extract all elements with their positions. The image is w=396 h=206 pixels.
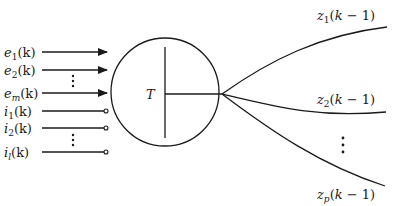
output-label-zp: zp(k − 1): [316, 187, 375, 204]
input-label-em: em(k): [4, 86, 38, 103]
ellipsis-inhibitory-icon: [72, 134, 74, 146]
threshold-label: T: [146, 87, 156, 102]
inhibitory-line-1: [42, 109, 108, 113]
input-label-e1: e1(k): [4, 45, 35, 62]
input-label-il: il(k): [4, 145, 29, 162]
output-branch-p: [222, 94, 385, 186]
inhibitory-terminal-icon: [104, 109, 108, 113]
output-label-z1: z1(k − 1): [316, 8, 375, 25]
inhibitory-line-l: [42, 150, 108, 154]
neuron-diagram: e1(k) e2(k) em(k) i1(k) i2(k) il(k): [0, 0, 396, 206]
inhibitory-terminal-icon: [104, 126, 108, 130]
input-label-i1: i1(k): [4, 104, 32, 121]
ellipsis-outputs-icon: [342, 137, 345, 154]
output-branch-1: [222, 27, 387, 94]
output-label-z2: z2(k − 1): [316, 92, 375, 109]
inhibitory-terminal-icon: [104, 150, 108, 154]
ellipsis-excitatory-icon: [72, 75, 74, 87]
inhibitory-line-2: [42, 126, 108, 130]
input-label-e2: e2(k): [4, 63, 35, 80]
input-label-i2: i2(k): [4, 121, 32, 138]
